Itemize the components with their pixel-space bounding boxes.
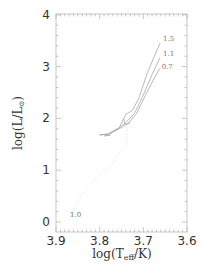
- y-axis-title: log(L/L⊙): [11, 96, 26, 150]
- y-tick-label: 2: [42, 111, 50, 125]
- x-tick-label: 3.6: [177, 234, 196, 248]
- track-label: 1.5: [163, 35, 174, 43]
- track-label: 1.1: [163, 50, 174, 58]
- series-lines: [69, 43, 160, 219]
- track-0-7: [108, 68, 159, 134]
- track-1-0: [69, 124, 128, 220]
- track-label: 0.7: [162, 63, 173, 71]
- y-tick-label: 3: [42, 60, 50, 74]
- track-1-1: [100, 58, 160, 135]
- track-base-mark: [104, 135, 111, 136]
- y-tick-label: 4: [42, 8, 50, 22]
- x-tick-label: 3.8: [90, 234, 109, 248]
- x-tick-label: 3.7: [134, 234, 153, 248]
- x-tick-label: 3.9: [46, 234, 65, 248]
- hr-diagram-chart: 3.93.83.73.601234 1.51.10.71.0 log(Teff/…: [0, 0, 204, 273]
- y-tick-label: 0: [42, 215, 50, 229]
- track-label: 1.0: [70, 211, 81, 219]
- x-axis-title: log(Teff/K): [92, 247, 152, 262]
- y-tick-label: 1: [42, 163, 50, 177]
